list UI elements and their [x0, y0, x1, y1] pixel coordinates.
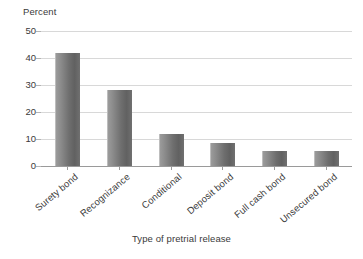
x-axis-tick-labels: Surety bondRecognizanceConditionalDeposi… [0, 167, 363, 227]
bars-container [41, 31, 352, 166]
bar-chart: Percent 01020304050 Surety bondRecogniza… [0, 0, 363, 259]
bar [314, 151, 339, 166]
x-axis-title: Type of pretrial release [0, 233, 363, 244]
bar [107, 90, 132, 166]
bar [210, 143, 235, 166]
y-tick-label: 50 [25, 26, 36, 36]
y-axis-title: Percent [23, 6, 56, 17]
bar [55, 53, 80, 166]
y-tick-label: 30 [25, 80, 36, 90]
y-tick-label: 10 [25, 134, 36, 144]
y-tick-label: 20 [25, 107, 36, 117]
bar [262, 151, 287, 166]
y-axis-tick-labels: 01020304050 [16, 31, 36, 166]
bar [159, 134, 184, 166]
y-tick-label: 40 [25, 53, 36, 63]
